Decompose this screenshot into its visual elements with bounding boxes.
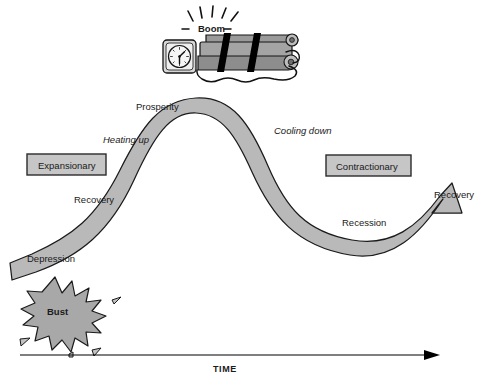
- expansionary-label: Expansionary: [38, 160, 96, 171]
- dynamite-bundle-icon: [197, 33, 300, 82]
- recovery-left-label: Recovery: [74, 194, 114, 205]
- cooling-down-label: Cooling down: [274, 125, 332, 136]
- diagram-canvas: Boom Bust Expansionary Contractionary De…: [0, 0, 486, 382]
- business-cycle-diagram: Boom Bust Expansionary Contractionary De…: [0, 0, 486, 382]
- time-axis: [20, 350, 440, 360]
- boom-flash-rays: [188, 6, 238, 21]
- heating-up-label: Heating up: [103, 134, 149, 145]
- recovery-right-label: Recovery: [434, 189, 474, 200]
- bust-label: Bust: [47, 306, 69, 317]
- business-cycle-band: [10, 98, 462, 280]
- boom-label: Boom: [198, 23, 225, 34]
- time-axis-label: TIME: [213, 364, 237, 374]
- recession-label: Recession: [342, 217, 386, 228]
- timer-clock-icon: [163, 40, 196, 73]
- depression-label: Depression: [27, 253, 75, 264]
- contractionary-label: Contractionary: [336, 161, 398, 172]
- prosperity-label: Prosperity: [136, 101, 179, 112]
